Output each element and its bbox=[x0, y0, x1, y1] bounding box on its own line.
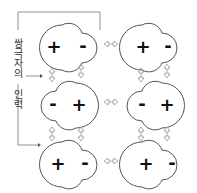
svg-text:+: + bbox=[138, 153, 153, 174]
dipole-diagram: + - + - - + - + + - + - bbox=[0, 0, 197, 193]
svg-text:-: - bbox=[168, 152, 175, 173]
molecule-r1c1: - + bbox=[127, 81, 185, 130]
horizontal-attraction-arrow bbox=[104, 99, 118, 105]
vertical-attraction-arrow bbox=[138, 127, 144, 141]
svg-text:+: + bbox=[159, 94, 174, 115]
dipole-attraction-label: 쌍극자의 인력 bbox=[9, 38, 23, 109]
molecule-r0c0: + - bbox=[40, 23, 98, 72]
svg-text:-: - bbox=[81, 152, 88, 173]
svg-text:+: + bbox=[71, 94, 86, 115]
horizontal-attraction-arrow bbox=[104, 158, 118, 164]
vertical-attraction-arrow bbox=[49, 68, 55, 82]
svg-text:-: - bbox=[164, 35, 171, 56]
molecule-r2c0: + - bbox=[40, 140, 98, 189]
molecule-r1c0: - + bbox=[41, 81, 99, 130]
vertical-attraction-arrow bbox=[49, 127, 55, 141]
svg-text:-: - bbox=[138, 93, 145, 114]
svg-text:+: + bbox=[50, 153, 65, 174]
svg-text:-: - bbox=[49, 93, 56, 114]
molecule-r2c1: + - bbox=[120, 140, 177, 189]
svg-text:+: + bbox=[135, 36, 150, 57]
vertical-attraction-arrow bbox=[78, 127, 84, 141]
molecule-r0c1: + - bbox=[120, 23, 177, 72]
vertical-attraction-arrow bbox=[164, 127, 170, 141]
horizontal-attraction-arrow bbox=[104, 41, 118, 47]
svg-text:+: + bbox=[46, 36, 61, 57]
svg-text:-: - bbox=[79, 35, 86, 56]
vertical-attraction-arrow bbox=[164, 64, 170, 78]
